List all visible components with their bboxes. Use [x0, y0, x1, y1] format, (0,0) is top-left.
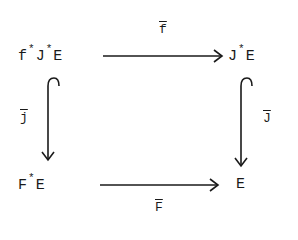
node-bottom-left: F*E [18, 174, 46, 194]
superscript: * [28, 172, 36, 184]
node-bottom-right: E [236, 176, 246, 193]
arrow-left-hook [42, 78, 59, 160]
superscript: * [238, 43, 246, 55]
label-top-arrow: f [159, 22, 167, 37]
node-text: E [53, 48, 63, 65]
label-left-arrow: j [20, 110, 28, 125]
node-top-right: J*E [228, 45, 256, 65]
superscript: * [28, 43, 36, 55]
node-text: E [236, 176, 246, 193]
node-text: J [36, 48, 46, 65]
node-top-left: f*J*E [18, 45, 63, 65]
node-text: J [228, 48, 238, 65]
arrow-bottom [100, 179, 218, 191]
node-text: E [36, 177, 46, 194]
node-text: F [18, 177, 28, 194]
arrow-right-hook [235, 78, 252, 166]
superscript: * [46, 43, 54, 55]
arrow-top [103, 50, 222, 62]
label-right-arrow: J [263, 111, 271, 126]
label-bottom-arrow: F [155, 200, 163, 215]
node-text: f [18, 48, 28, 65]
node-text: E [246, 48, 256, 65]
